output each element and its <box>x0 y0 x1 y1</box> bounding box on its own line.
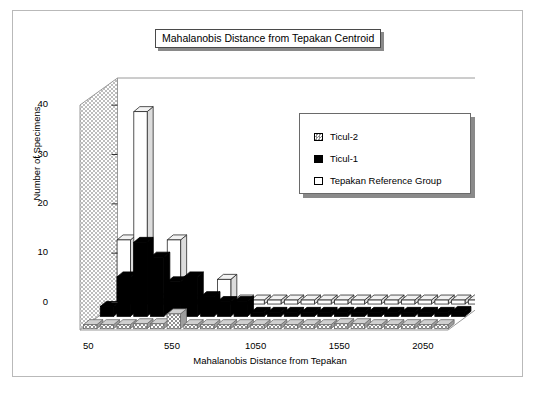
legend-label: Tepakan Reference Group <box>330 175 441 186</box>
x-tick-label: 1050 <box>234 340 278 351</box>
legend-label: Ticul-1 <box>330 153 358 164</box>
legend-item[interactable]: Tepakan Reference Group <box>314 175 441 186</box>
legend-swatch-icon <box>314 133 323 141</box>
chart-screenshot: Mahalanobis Distance from Tepakan Centro… <box>0 0 539 394</box>
x-tick-label: 50 <box>66 340 110 351</box>
x-tick-label: 1550 <box>317 340 361 351</box>
legend-item[interactable]: Ticul-1 <box>314 153 358 164</box>
y-tick-label: 30 <box>22 148 48 159</box>
y-tick-label: 10 <box>22 246 48 257</box>
legend-label: Ticul-2 <box>330 131 358 142</box>
chart-title: Mahalanobis Distance from Tepakan Centro… <box>155 29 381 48</box>
legend: Ticul-2Ticul-1Tepakan Reference Group <box>299 113 471 194</box>
legend-item[interactable]: Ticul-2 <box>314 131 358 142</box>
y-tick-label: 20 <box>22 197 48 208</box>
y-tick-label: 0 <box>22 296 48 307</box>
legend-swatch-icon <box>314 155 323 163</box>
chart-title-text: Mahalanobis Distance from Tepakan Centro… <box>155 29 381 48</box>
x-tick-label: 2050 <box>401 340 445 351</box>
x-tick-label: 550 <box>150 340 194 351</box>
x-axis-title: Mahalanobis Distance from Tepakan <box>110 355 430 366</box>
legend-box: Ticul-2Ticul-1Tepakan Reference Group <box>299 113 471 194</box>
y-tick-label: 40 <box>22 98 48 109</box>
legend-swatch-icon <box>314 177 323 185</box>
